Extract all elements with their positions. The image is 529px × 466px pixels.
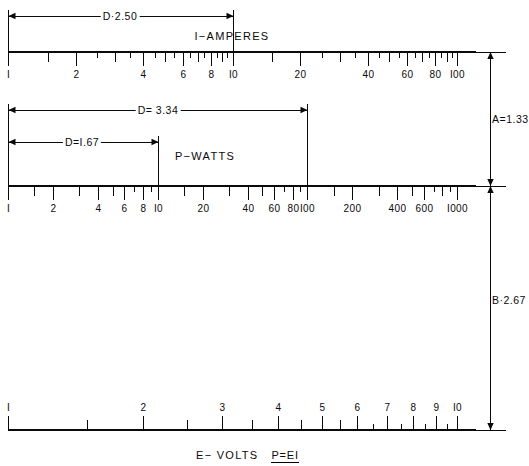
tick-label-amperes-10: I0 <box>229 69 238 80</box>
tick-label-amperes-4: 4 <box>141 69 147 80</box>
dimension-arrowhead <box>301 107 308 113</box>
dimension-arrowhead-vertical <box>487 186 493 193</box>
dimension-arrowhead-vertical <box>487 423 493 430</box>
tick-label-watts-4: 4 <box>96 203 102 214</box>
axis-amperes <box>8 52 476 66</box>
tick-label-watts-20: 20 <box>198 203 210 214</box>
dimension-label-a-133: A=1.33 <box>492 113 529 125</box>
dimension-arrowhead <box>152 139 159 145</box>
axis-title-watts: P−WATTS <box>175 150 235 162</box>
tick-label-watts-200: 200 <box>344 203 362 214</box>
dimension-label-d-334: D= 3.34 <box>136 104 181 116</box>
tick-label-amperes-6: 6 <box>181 69 187 80</box>
caption-axis-label: E− VOLTS <box>196 449 258 461</box>
figure-caption: E− VOLTSP=EI <box>196 449 299 463</box>
tick-label-volts-6: 6 <box>355 402 361 413</box>
dimension-label-d-167: D=I.67 <box>63 136 101 148</box>
tick-label-volts-4: 4 <box>276 402 282 413</box>
tick-label-watts-100: I00 <box>300 203 315 214</box>
tick-label-amperes-2: 2 <box>74 69 80 80</box>
tick-label-watts-6: 6 <box>122 203 128 214</box>
tick-label-amperes-80: 80 <box>430 69 442 80</box>
tick-label-amperes-20: 20 <box>295 69 307 80</box>
tick-label-volts-1: I <box>7 402 10 413</box>
dimension-arrowhead <box>9 107 16 113</box>
dimension-b-267 <box>487 186 493 430</box>
tick-label-amperes-1: I <box>7 69 10 80</box>
tick-label-amperes-8: 8 <box>209 69 215 80</box>
dimension-arrowhead-vertical <box>487 52 493 59</box>
caption-formula: P=EI <box>271 449 298 463</box>
axis-watts <box>8 186 476 200</box>
tick-label-watts-80: 80 <box>288 203 300 214</box>
tick-label-watts-8: 8 <box>141 203 147 214</box>
dimension-arrowhead-vertical <box>487 179 493 186</box>
tick-label-watts-600: 600 <box>416 203 434 214</box>
tick-label-watts-40: 40 <box>243 203 255 214</box>
tick-label-amperes-100: I00 <box>450 69 465 80</box>
tick-label-amperes-60: 60 <box>402 69 414 80</box>
tick-label-volts-9: 9 <box>434 402 440 413</box>
dimension-arrowhead <box>9 13 16 19</box>
tick-label-watts-60: 60 <box>269 203 281 214</box>
dimension-label-d-250: D·2.50 <box>101 10 140 22</box>
axis-title-amperes: I−AMPERES <box>195 30 270 42</box>
tick-label-volts-2: 2 <box>141 402 147 413</box>
tick-label-volts-5: 5 <box>320 402 326 413</box>
tick-label-watts-1000: I000 <box>447 203 468 214</box>
dimension-arrowhead <box>9 139 16 145</box>
tick-label-volts-8: 8 <box>411 402 417 413</box>
tick-label-amperes-40: 40 <box>363 69 375 80</box>
tick-label-watts-1: I <box>7 203 10 214</box>
dimension-arrowhead <box>227 13 234 19</box>
tick-label-watts-10: I0 <box>154 203 163 214</box>
tick-label-watts-2: 2 <box>51 203 57 214</box>
tick-label-watts-400: 400 <box>389 203 407 214</box>
tick-label-volts-10: I0 <box>453 402 462 413</box>
tick-label-volts-3: 3 <box>220 402 226 413</box>
axis-volts <box>8 416 476 430</box>
dimension-label-b-267: B·2.67 <box>492 294 526 306</box>
tick-label-volts-7: 7 <box>385 402 391 413</box>
